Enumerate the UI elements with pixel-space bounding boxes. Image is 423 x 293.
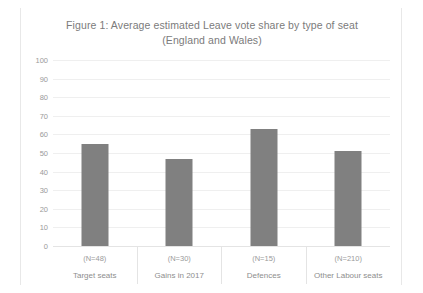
bar[interactable]: [334, 151, 361, 246]
chart-title-line-2: (England and Wales): [21, 33, 403, 48]
y-axis-tick-label: 80: [40, 93, 48, 102]
bar[interactable]: [250, 129, 277, 246]
x-axis-category: (N=48)Target seats: [53, 247, 137, 284]
category-count-label: (N=210): [307, 253, 391, 265]
y-axis-tick-label: 70: [40, 111, 48, 120]
bar-slot: [53, 60, 137, 246]
x-axis-labels: (N=48)Target seats(N=30)Gains in 2017(N=…: [53, 246, 390, 284]
bar[interactable]: [82, 144, 109, 246]
bar-slot: [306, 60, 390, 246]
y-axis-tick-label: 90: [40, 74, 48, 83]
plot-area: 1009080706050403020100: [53, 60, 390, 246]
bar-slot: [137, 60, 221, 246]
y-axis-tick-label: 10: [40, 223, 48, 232]
x-axis-category: (N=210)Other Labour seats: [306, 247, 391, 284]
bar-slot: [222, 60, 306, 246]
y-axis-tick-label: 20: [40, 204, 48, 213]
bar-series: [53, 60, 390, 246]
bar[interactable]: [166, 159, 193, 246]
chart-figure: Figure 1: Average estimated Leave vote s…: [20, 8, 402, 285]
category-count-label: (N=15): [222, 253, 306, 265]
category-name-label: Defences: [222, 269, 306, 283]
chart-title-line-1: Figure 1: Average estimated Leave vote s…: [66, 19, 358, 31]
category-name-label: Gains in 2017: [138, 269, 222, 283]
y-axis-tick-label: 0: [44, 242, 48, 251]
y-axis-tick-label: 50: [40, 149, 48, 158]
category-name-label: Target seats: [53, 269, 137, 283]
category-name-label: Other Labour seats: [307, 269, 391, 283]
chart-title: Figure 1: Average estimated Leave vote s…: [21, 18, 403, 48]
y-axis-tick-label: 60: [40, 130, 48, 139]
category-count-label: (N=30): [138, 253, 222, 265]
y-axis-tick-label: 40: [40, 167, 48, 176]
x-axis-category: (N=30)Gains in 2017: [137, 247, 222, 284]
x-axis-category: (N=15)Defences: [221, 247, 306, 284]
y-axis-tick-label: 30: [40, 186, 48, 195]
category-count-label: (N=48): [53, 253, 137, 265]
y-axis-tick-label: 100: [35, 56, 48, 65]
